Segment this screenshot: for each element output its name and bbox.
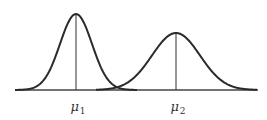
mean-label-1-subscript: 1: [80, 106, 86, 116]
normal-curves-diagram: [0, 0, 267, 120]
mean-label-2-subscript: 2: [180, 106, 186, 116]
mean-label-1-symbol: μ: [70, 99, 78, 114]
mean-label-2: μ2: [170, 99, 185, 116]
mean-label-1: μ1: [70, 99, 85, 116]
mean-label-2-symbol: μ: [170, 99, 178, 114]
